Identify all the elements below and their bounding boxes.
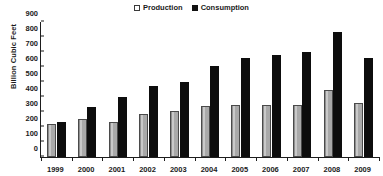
y-tick-mark — [41, 66, 44, 67]
y-tick-mark — [41, 81, 44, 82]
bar-production-2002 — [139, 114, 148, 157]
y-tick-mark — [41, 141, 44, 142]
y-tick-label: 0 — [34, 145, 41, 153]
x-axis-label-2004: 2004 — [201, 165, 218, 174]
bar-group-2006 — [262, 22, 281, 157]
x-axis-label-2006: 2006 — [262, 165, 279, 174]
y-tick-800: 800 — [25, 25, 41, 33]
bar-consumption-1999 — [57, 122, 66, 157]
y-tick-label: 900 — [25, 10, 41, 18]
legend-swatch-consumption-icon — [192, 5, 198, 11]
bar-production-1999 — [47, 124, 56, 157]
y-tick-400: 400 — [25, 85, 41, 93]
bar-production-2003 — [170, 111, 179, 158]
x-axis-label-2007: 2007 — [293, 165, 310, 174]
bar-group-2003 — [170, 22, 189, 157]
y-tick-700: 700 — [25, 40, 41, 48]
y-tick-mark — [41, 51, 44, 52]
y-tick-label: 600 — [25, 55, 41, 63]
x-axis-label-2002: 2002 — [139, 165, 156, 174]
bar-consumption-2004 — [210, 66, 219, 157]
bar-chart: Production Consumption Billion Cubic Fee… — [0, 0, 383, 176]
bar-group-2004 — [201, 22, 220, 157]
y-tick-label: 800 — [25, 25, 41, 33]
y-tick-100: 100 — [25, 130, 41, 138]
y-tick-mark — [41, 36, 44, 37]
bar-group-2008 — [324, 22, 343, 157]
y-tick-mark — [41, 21, 44, 22]
bar-consumption-2000 — [87, 107, 96, 157]
legend-label-production: Production — [143, 4, 183, 12]
bar-group-2001 — [109, 22, 128, 157]
y-tick-500: 500 — [25, 70, 41, 78]
bar-production-2009 — [354, 103, 363, 157]
x-axis-label-2000: 2000 — [78, 165, 95, 174]
y-tick-0: 0 — [34, 145, 41, 153]
legend-item-production: Production — [134, 4, 183, 12]
bar-consumption-2005 — [241, 58, 250, 157]
y-tick-900: 900 — [25, 10, 41, 18]
bar-consumption-2006 — [272, 55, 281, 157]
legend-swatch-production-icon — [134, 5, 140, 11]
y-tick-mark — [41, 96, 44, 97]
bar-production-2004 — [201, 106, 210, 157]
bar-group-2002 — [139, 22, 158, 157]
bar-production-2008 — [324, 90, 333, 157]
legend-label-consumption: Consumption — [201, 4, 249, 12]
bar-consumption-2003 — [180, 82, 189, 157]
bar-production-2000 — [78, 119, 87, 157]
x-axis-labels: 1999200020012002200320042005200620072008… — [40, 157, 378, 175]
x-axis-label-1999: 1999 — [47, 165, 64, 174]
bar-production-2001 — [109, 122, 118, 157]
bar-group-1999 — [47, 22, 66, 157]
y-tick-label: 700 — [25, 40, 41, 48]
y-tick-label: 200 — [25, 115, 41, 123]
y-tick-mark — [41, 111, 44, 112]
x-axis-label-2008: 2008 — [324, 165, 341, 174]
bar-consumption-2009 — [364, 58, 373, 157]
x-tick-mark — [379, 157, 380, 161]
y-axis-title: Billion Cubic Feet — [9, 2, 18, 112]
y-tick-label: 500 — [25, 70, 41, 78]
y-tick-300: 300 — [25, 100, 41, 108]
y-tick-mark — [41, 126, 44, 127]
bar-consumption-2008 — [333, 32, 342, 157]
bar-consumption-2001 — [118, 97, 127, 157]
bar-group-2009 — [354, 22, 373, 157]
chart-legend: Production Consumption — [0, 1, 383, 14]
x-axis-label-2005: 2005 — [231, 165, 248, 174]
bar-production-2007 — [293, 105, 302, 157]
y-tick-label: 100 — [25, 130, 41, 138]
bar-group-2005 — [231, 22, 250, 157]
y-tick-label: 300 — [25, 100, 41, 108]
legend-item-consumption: Consumption — [192, 4, 249, 12]
bar-group-2000 — [78, 22, 97, 157]
x-axis-label-2003: 2003 — [170, 165, 187, 174]
bar-consumption-2002 — [149, 86, 158, 157]
y-tick-200: 200 — [25, 115, 41, 123]
bar-production-2005 — [231, 105, 240, 157]
bar-group-2007 — [293, 22, 312, 157]
bar-production-2006 — [262, 105, 271, 157]
plot-area: 0100200300400500600700800900 — [40, 22, 379, 158]
x-axis-label-2009: 2009 — [354, 165, 371, 174]
x-axis-label-2001: 2001 — [108, 165, 125, 174]
bar-consumption-2007 — [302, 52, 311, 157]
y-tick-label: 400 — [25, 85, 41, 93]
y-tick-600: 600 — [25, 55, 41, 63]
